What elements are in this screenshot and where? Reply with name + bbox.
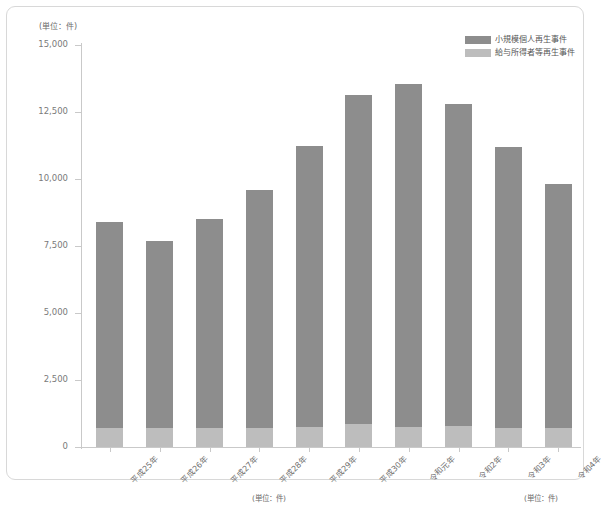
bar-group[interactable]: [495, 147, 522, 447]
bar-group[interactable]: [296, 146, 323, 447]
y-tick-mark: [75, 447, 81, 448]
x-axis-label: 平成29年: [327, 453, 359, 485]
x-axis-label: 令和4年: [575, 453, 603, 481]
x-tick-mark: [409, 448, 410, 452]
x-tick-mark: [508, 448, 509, 452]
unit-label-bottom-right: (単位：件): [524, 492, 558, 503]
bar-group[interactable]: [246, 190, 273, 447]
bar-segment-small-scale[interactable]: [246, 190, 273, 429]
unit-label-bottom-left: (単位：件): [252, 492, 286, 503]
x-axis-label: 平成26年: [178, 453, 210, 485]
bar-segment-small-scale[interactable]: [545, 184, 572, 428]
chart-card: (単位：件) 小規模個人再生事件 給与所得者等再生事件 02,5005,0007…: [6, 6, 584, 480]
bar-group[interactable]: [395, 84, 422, 447]
y-tick-label: 12,500: [38, 106, 68, 116]
unit-label-top: (単位：件): [39, 20, 77, 31]
bar-segment-salaried[interactable]: [495, 428, 522, 447]
bar-segment-small-scale[interactable]: [445, 104, 472, 426]
x-tick-mark: [160, 448, 161, 452]
plot-area: [81, 45, 579, 447]
bar-group[interactable]: [345, 95, 372, 447]
legend-label-small-scale: 小規模個人再生事件: [495, 35, 567, 44]
bar-segment-salaried[interactable]: [246, 428, 273, 447]
bar-group[interactable]: [146, 241, 173, 447]
x-tick-mark: [558, 448, 559, 452]
x-tick-mark: [110, 448, 111, 452]
x-tick-mark: [259, 448, 260, 452]
bar-segment-salaried[interactable]: [196, 428, 223, 447]
x-axis-label: 令和元年: [426, 453, 456, 483]
x-tick-mark: [309, 448, 310, 452]
x-tick-mark: [459, 448, 460, 452]
bar-segment-salaried[interactable]: [445, 426, 472, 447]
bar-segment-salaried[interactable]: [395, 427, 422, 447]
bar-segment-small-scale[interactable]: [296, 146, 323, 427]
x-axis-line: [81, 447, 581, 448]
y-tick-label: 5,000: [44, 307, 68, 317]
x-axis-label: 平成27年: [228, 453, 260, 485]
bar-group[interactable]: [545, 184, 572, 447]
y-tick-label: 7,500: [44, 240, 68, 250]
bar-segment-small-scale[interactable]: [395, 84, 422, 427]
x-tick-mark: [210, 448, 211, 452]
legend-swatch-small-scale: [465, 36, 491, 44]
x-axis-label: 平成28年: [277, 453, 309, 485]
y-tick-label: 2,500: [44, 374, 68, 384]
bar-group[interactable]: [445, 104, 472, 447]
bar-group[interactable]: [96, 222, 123, 447]
y-tick-label: 15,000: [38, 39, 68, 49]
bar-segment-salaried[interactable]: [96, 428, 123, 447]
bar-group[interactable]: [196, 219, 223, 447]
bar-segment-small-scale[interactable]: [495, 147, 522, 428]
bar-segment-small-scale[interactable]: [345, 95, 372, 425]
x-axis-label: 平成30年: [377, 453, 409, 485]
bar-segment-salaried[interactable]: [345, 424, 372, 447]
legend-item-0[interactable]: 小規模個人再生事件: [465, 34, 575, 45]
bar-segment-salaried[interactable]: [146, 428, 173, 447]
x-tick-mark: [359, 448, 360, 452]
x-axis-label: 平成25年: [128, 453, 160, 485]
x-axis-label: 令和2年: [475, 453, 503, 481]
y-tick-label: 10,000: [38, 173, 68, 183]
x-axis-label: 令和3年: [525, 453, 553, 481]
bar-segment-small-scale[interactable]: [146, 241, 173, 429]
bar-segment-salaried[interactable]: [296, 427, 323, 447]
bar-segment-salaried[interactable]: [545, 428, 572, 447]
bar-segment-small-scale[interactable]: [96, 222, 123, 428]
bar-segment-small-scale[interactable]: [196, 219, 223, 428]
y-tick-label: 0: [63, 441, 68, 451]
